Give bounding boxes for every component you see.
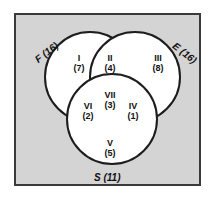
- set-label-S: S (11): [94, 172, 121, 183]
- region-count-I: (7): [74, 63, 85, 73]
- region-roman-VI: VI: [83, 101, 94, 111]
- region-count-VII: (3): [104, 100, 115, 110]
- region-roman-II: II: [105, 53, 116, 63]
- region-label-II: II (4): [105, 53, 116, 73]
- region-label-III: III (8): [153, 53, 164, 73]
- region-count-IV: (1): [128, 111, 139, 121]
- region-label-I: I (7): [74, 53, 85, 73]
- region-label-VII: VII (3): [104, 90, 115, 110]
- region-count-III: (8): [153, 63, 164, 73]
- region-count-VI: (2): [83, 111, 94, 121]
- region-count-II: (4): [105, 63, 116, 73]
- region-label-VI: VI (2): [83, 101, 94, 121]
- region-roman-I: I: [74, 53, 85, 63]
- region-count-V: (5): [105, 148, 116, 158]
- region-roman-VII: VII: [104, 90, 115, 100]
- region-roman-V: V: [105, 138, 116, 148]
- region-label-IV: IV (1): [128, 101, 139, 121]
- venn-diagram-figure: F (16) E (16) S (11) I (7) II (4) III (8…: [14, 13, 201, 186]
- region-label-V: V (5): [105, 138, 116, 158]
- region-roman-III: III: [153, 53, 164, 63]
- region-roman-IV: IV: [128, 101, 139, 111]
